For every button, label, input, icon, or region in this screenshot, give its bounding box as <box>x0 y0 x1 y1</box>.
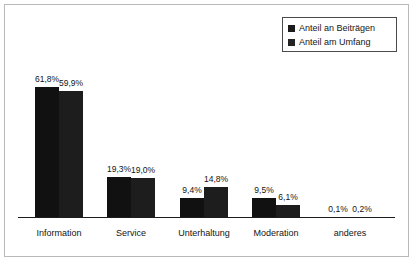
chart-legend: Anteil an Beiträgen Anteil am Umfang <box>282 17 397 52</box>
bar <box>107 177 131 218</box>
category-label: anderes <box>334 228 367 238</box>
chart-figure: 61,8%59,9%19,3%19,0%9,4%14,8%9,5%6,1%0,1… <box>0 0 413 261</box>
category-label: Service <box>116 228 146 238</box>
bar <box>35 87 59 218</box>
bar <box>252 198 276 218</box>
category-label: Moderation <box>253 228 298 238</box>
legend-swatch-icon <box>288 25 295 32</box>
bar-value-label: 19,0% <box>131 166 155 175</box>
x-axis-line <box>18 217 395 218</box>
bar <box>59 91 83 218</box>
bar <box>204 187 228 218</box>
category-label: Information <box>36 228 81 238</box>
bar-value-label: 6,1% <box>278 193 297 202</box>
bar <box>180 198 204 218</box>
plot-area: 61,8%59,9%19,3%19,0%9,4%14,8%9,5%6,1%0,1… <box>0 0 413 261</box>
bar <box>131 178 155 218</box>
bar-value-label: 0,1% <box>328 205 347 214</box>
bar-value-label: 0,2% <box>352 205 371 214</box>
category-label: Unterhaltung <box>178 228 230 238</box>
legend-swatch-icon <box>288 39 295 46</box>
legend-item: Anteil an Beiträgen <box>288 21 392 35</box>
bar-value-label: 14,8% <box>204 175 228 184</box>
legend-item-label: Anteil am Umfang <box>299 37 371 47</box>
bar-value-label: 59,9% <box>59 79 83 88</box>
bar-value-label: 9,4% <box>182 186 201 195</box>
legend-item-label: Anteil an Beiträgen <box>299 23 375 33</box>
legend-item: Anteil am Umfang <box>288 35 392 49</box>
bar-value-label: 9,5% <box>254 186 273 195</box>
bar-value-label: 19,3% <box>107 165 131 174</box>
bar-value-label: 61,8% <box>35 75 59 84</box>
